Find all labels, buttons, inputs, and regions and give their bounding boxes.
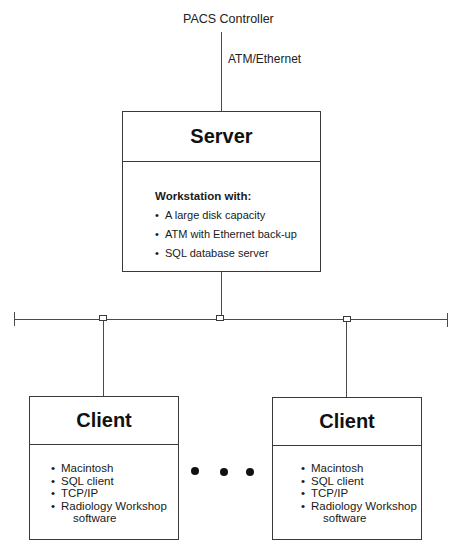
- client-feature-item: Radiology Workshop: [51, 500, 167, 513]
- server-feature-item: SQL database server: [155, 244, 297, 263]
- client-box-left: Client Macintosh SQL client TCP/IP Radio…: [29, 396, 179, 540]
- client-feature-continuation: software: [301, 512, 417, 525]
- client-feature-item: SQL client: [51, 475, 167, 488]
- bus-tap-connector-right: [343, 316, 351, 322]
- server-subtitle: Workstation with:: [155, 190, 251, 202]
- client-right-drop-line: [346, 322, 347, 397]
- atm-ethernet-label: ATM/Ethernet: [228, 52, 301, 66]
- client-title: Client: [30, 397, 178, 445]
- bus-right-terminator: [447, 313, 448, 327]
- pacs-controller-label: PACS Controller: [183, 12, 274, 26]
- client-feature-item: Macintosh: [51, 462, 167, 475]
- client-left-drop-line: [103, 321, 104, 396]
- server-feature-item: A large disk capacity: [155, 206, 297, 225]
- bus-tap-connector-server: [216, 315, 224, 321]
- client-feature-continuation: software: [51, 512, 167, 525]
- atm-ethernet-link-line: [221, 32, 222, 111]
- client-title: Client: [273, 398, 421, 446]
- server-bus-link-line: [221, 272, 222, 316]
- client-feature-item: Macintosh: [301, 462, 417, 475]
- server-title: Server: [123, 112, 320, 162]
- network-bus-line: [14, 319, 448, 320]
- client-feature-item: SQL client: [301, 475, 417, 488]
- client-box-right: Client Macintosh SQL client TCP/IP Radio…: [272, 397, 422, 540]
- client-feature-item: TCP/IP: [301, 487, 417, 500]
- server-feature-item: ATM with Ethernet back-up: [155, 225, 297, 244]
- ellipsis-dot: [246, 468, 254, 476]
- ellipsis-dot: [191, 467, 199, 475]
- server-box: Server Workstation with: A large disk ca…: [122, 111, 321, 272]
- client-feature-item: Radiology Workshop: [301, 500, 417, 513]
- client-feature-list: Macintosh SQL client TCP/IP Radiology Wo…: [301, 462, 417, 525]
- client-feature-item: TCP/IP: [51, 487, 167, 500]
- ellipsis-dot: [220, 468, 228, 476]
- server-feature-list: A large disk capacity ATM with Ethernet …: [155, 206, 297, 263]
- client-feature-list: Macintosh SQL client TCP/IP Radiology Wo…: [51, 462, 167, 525]
